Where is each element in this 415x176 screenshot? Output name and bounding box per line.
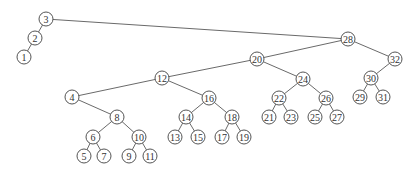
binary-tree-diagram: 3212820321224304162226293181418212325276…	[0, 0, 415, 176]
node-label: 22	[274, 93, 284, 104]
tree-edge-28-20	[257, 39, 348, 59]
tree-edge-28-32	[348, 39, 395, 59]
tree-node-21: 21	[262, 110, 276, 124]
node-label: 27	[332, 112, 342, 123]
node-label: 30	[366, 73, 376, 84]
node-label: 29	[355, 92, 365, 103]
tree-node-6: 6	[86, 130, 100, 144]
tree-edge-12-16	[162, 78, 209, 98]
tree-node-16: 16	[202, 91, 216, 105]
tree-node-14: 14	[179, 110, 193, 124]
tree-edge-20-12	[162, 59, 257, 78]
node-label: 10	[134, 132, 144, 143]
tree-node-3: 3	[39, 12, 53, 26]
tree-edge-12-4	[72, 78, 162, 97]
tree-node-1: 1	[17, 50, 31, 64]
node-label: 23	[286, 112, 296, 123]
tree-node-11: 11	[143, 149, 157, 163]
node-label: 7	[102, 151, 107, 162]
node-label: 26	[321, 93, 331, 104]
tree-node-18: 18	[225, 110, 239, 124]
node-label: 28	[343, 34, 353, 45]
tree-node-23: 23	[284, 110, 298, 124]
tree-node-28: 28	[341, 32, 355, 46]
node-label: 25	[310, 112, 320, 123]
tree-node-9: 9	[122, 149, 136, 163]
tree-node-17: 17	[215, 130, 229, 144]
tree-node-22: 22	[272, 91, 286, 105]
node-label: 20	[252, 54, 262, 65]
node-label: 21	[264, 112, 274, 123]
node-label: 4	[70, 92, 75, 103]
node-label: 15	[193, 132, 203, 143]
tree-edge-20-24	[257, 59, 303, 79]
node-label: 8	[115, 112, 120, 123]
node-label: 18	[227, 112, 237, 123]
node-label: 9	[127, 151, 132, 162]
tree-nodes: 3212820321224304162226293181418212325276…	[17, 12, 402, 163]
tree-node-25: 25	[308, 110, 322, 124]
tree-node-12: 12	[155, 71, 169, 85]
tree-node-8: 8	[110, 110, 124, 124]
node-label: 3	[44, 14, 49, 25]
tree-node-4: 4	[65, 90, 79, 104]
node-label: 11	[145, 151, 155, 162]
node-label: 1	[22, 52, 27, 63]
tree-node-32: 32	[388, 52, 402, 66]
tree-node-27: 27	[330, 110, 344, 124]
tree-node-10: 10	[132, 130, 146, 144]
tree-node-31: 31	[376, 90, 390, 104]
node-label: 19	[239, 132, 249, 143]
tree-node-19: 19	[237, 130, 251, 144]
node-label: 32	[390, 54, 400, 65]
tree-edge-3-28	[46, 19, 348, 39]
node-label: 5	[82, 151, 87, 162]
tree-node-2: 2	[28, 31, 42, 45]
tree-node-7: 7	[97, 149, 111, 163]
tree-node-26: 26	[319, 91, 333, 105]
node-label: 12	[157, 73, 167, 84]
node-label: 2	[33, 33, 38, 44]
node-label: 6	[91, 132, 96, 143]
tree-node-20: 20	[250, 52, 264, 66]
tree-edges	[24, 19, 395, 156]
tree-node-13: 13	[168, 130, 182, 144]
tree-node-24: 24	[296, 72, 310, 86]
node-label: 17	[217, 132, 227, 143]
node-label: 14	[181, 112, 191, 123]
tree-node-30: 30	[364, 71, 378, 85]
tree-node-15: 15	[191, 130, 205, 144]
tree-node-5: 5	[77, 149, 91, 163]
tree-node-29: 29	[353, 90, 367, 104]
node-label: 16	[204, 93, 214, 104]
node-label: 31	[378, 92, 388, 103]
node-label: 13	[170, 132, 180, 143]
node-label: 24	[298, 74, 308, 85]
